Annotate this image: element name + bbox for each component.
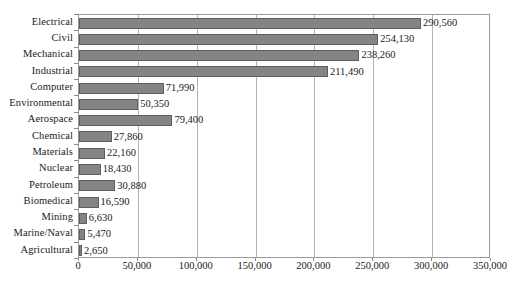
bar-row: 71,990 bbox=[79, 80, 195, 96]
plot-area: 290,560254,130238,260211,49071,99050,350… bbox=[78, 14, 490, 258]
category-label: Chemical bbox=[0, 128, 78, 144]
category-label: Mining bbox=[0, 209, 78, 225]
bar-row: 16,590 bbox=[79, 194, 129, 210]
category-label: Agricultural bbox=[0, 242, 78, 258]
bar bbox=[79, 83, 164, 94]
bar-row: 22,160 bbox=[79, 145, 136, 161]
bar-row: 50,350 bbox=[79, 96, 169, 112]
bar-value-label: 211,490 bbox=[328, 67, 364, 78]
x-tick-label: 150,000 bbox=[238, 261, 272, 272]
bar-value-label: 6,630 bbox=[87, 213, 113, 224]
category-label: Mechanical bbox=[0, 47, 78, 63]
bar-chart: ElectricalCivilMechanicalIndustrialCompu… bbox=[0, 0, 520, 288]
x-tick-label: 300,000 bbox=[414, 261, 448, 272]
bar-row: 27,860 bbox=[79, 129, 143, 145]
bar-value-label: 254,130 bbox=[378, 34, 414, 45]
bar bbox=[79, 213, 87, 224]
bar-row: 6,630 bbox=[79, 210, 112, 226]
category-axis: ElectricalCivilMechanicalIndustrialCompu… bbox=[0, 14, 78, 258]
category-label: Environmental bbox=[0, 95, 78, 111]
bar-row: 30,880 bbox=[79, 178, 146, 194]
bar-value-label: 290,560 bbox=[421, 18, 457, 29]
category-label: Marine/Naval bbox=[0, 225, 78, 241]
bar-value-label: 79,400 bbox=[172, 115, 203, 126]
category-label: Materials bbox=[0, 144, 78, 160]
bar bbox=[79, 18, 421, 29]
x-tick-label: 200,000 bbox=[296, 261, 330, 272]
bar-value-label: 22,160 bbox=[105, 148, 136, 159]
category-label: Nuclear bbox=[0, 160, 78, 176]
bar-row: 5,470 bbox=[79, 226, 111, 242]
bar-row: 211,490 bbox=[79, 64, 364, 80]
bar bbox=[79, 115, 172, 126]
bar bbox=[79, 66, 328, 77]
category-label: Electrical bbox=[0, 14, 78, 30]
bar-series: 290,560254,130238,260211,49071,99050,350… bbox=[79, 15, 489, 257]
bar bbox=[79, 180, 115, 191]
bar bbox=[79, 131, 112, 142]
bar-value-label: 27,860 bbox=[112, 132, 143, 143]
x-tick-label: 100,000 bbox=[179, 261, 213, 272]
bar-row: 290,560 bbox=[79, 15, 457, 31]
bar-value-label: 71,990 bbox=[164, 83, 195, 94]
x-axis-labels: 050,000100,000150,000200,000250,000300,0… bbox=[78, 261, 490, 277]
bar bbox=[79, 99, 138, 110]
bar-row: 238,260 bbox=[79, 48, 396, 64]
bar bbox=[79, 34, 378, 45]
bar-row: 79,400 bbox=[79, 113, 203, 129]
category-label: Biomedical bbox=[0, 193, 78, 209]
bar-row: 254,130 bbox=[79, 31, 414, 47]
category-label: Petroleum bbox=[0, 177, 78, 193]
bar-value-label: 5,470 bbox=[85, 229, 111, 240]
category-label: Civil bbox=[0, 30, 78, 46]
bar-value-label: 18,430 bbox=[101, 164, 132, 175]
bar-value-label: 30,880 bbox=[115, 181, 146, 192]
bar bbox=[79, 164, 101, 175]
bar-value-label: 238,260 bbox=[359, 50, 395, 61]
x-tick-label: 0 bbox=[75, 261, 80, 272]
x-tick-label: 250,000 bbox=[355, 261, 389, 272]
bar bbox=[79, 197, 99, 208]
bar bbox=[79, 148, 105, 159]
x-tick-label: 50,000 bbox=[122, 261, 151, 272]
category-label: Computer bbox=[0, 79, 78, 95]
bar bbox=[79, 50, 359, 61]
bar-row: 2,650 bbox=[79, 243, 108, 259]
x-tick-label: 350,000 bbox=[473, 261, 507, 272]
bar-row: 18,430 bbox=[79, 161, 132, 177]
bar-value-label: 16,590 bbox=[99, 197, 130, 208]
category-label: Aerospace bbox=[0, 112, 78, 128]
bar-value-label: 2,650 bbox=[82, 246, 108, 257]
category-label: Industrial bbox=[0, 63, 78, 79]
bar-value-label: 50,350 bbox=[138, 99, 169, 110]
